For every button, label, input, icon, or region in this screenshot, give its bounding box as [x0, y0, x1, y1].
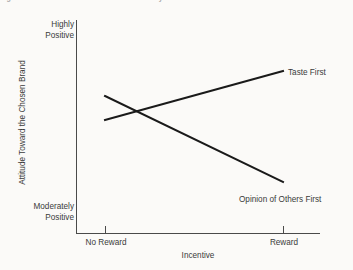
series-label-taste-first: Taste First: [288, 68, 326, 77]
y-axis-label-high-line1: Highly: [51, 20, 74, 29]
series-label-opinion-of-others-first: Opinion of Others First: [239, 195, 321, 204]
y-axis-label-high: Highly Positive: [38, 20, 74, 41]
x-axis-title: Incentive: [76, 251, 320, 260]
y-axis-title: Attitude Toward the Chosen Brand: [18, 33, 27, 213]
x-axis-label-no-reward: No Reward: [75, 238, 137, 247]
figure-container: Figure 1 Attitude Toward the Chosen Bran…: [0, 0, 353, 270]
y-axis-label-low-line1: Moderately: [33, 202, 74, 211]
series-line-opinion-of-others-first: [105, 96, 283, 182]
series-line-taste-first: [105, 71, 283, 120]
y-axis-label-high-line2: Positive: [45, 31, 74, 40]
y-axis-label-low-line2: Positive: [45, 213, 74, 222]
x-axis-label-reward: Reward: [256, 238, 312, 247]
